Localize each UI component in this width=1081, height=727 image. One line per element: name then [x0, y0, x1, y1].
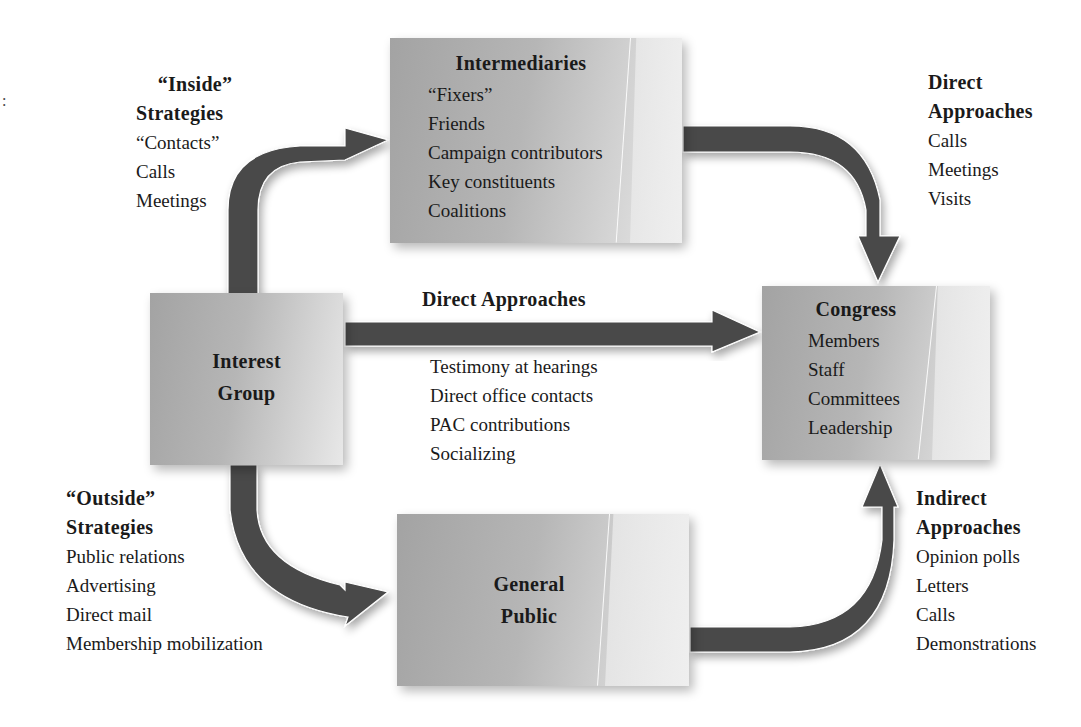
- arrow-direct-approaches-top: [683, 126, 900, 282]
- list-item: Coalitions: [428, 196, 603, 225]
- general-public-title-line2: Public: [457, 600, 601, 632]
- list-item: Membership mobilization: [66, 629, 263, 658]
- list-item: “Fixers”: [428, 80, 603, 109]
- intermediaries-title: Intermediaries: [390, 52, 652, 75]
- list-item: Letters: [916, 571, 1036, 600]
- list-item: Key constituents: [428, 167, 603, 196]
- list-item: Public relations: [66, 542, 263, 571]
- direct-approaches-top-head-line1: Direct: [928, 68, 1033, 97]
- node-interest-group: Interest Group: [150, 293, 343, 465]
- intermediaries-items: “Fixers” Friends Campaign contributors K…: [428, 80, 603, 225]
- list-item: PAC contributions: [430, 410, 598, 439]
- direct-approaches-middle-head: Direct Approaches: [422, 285, 586, 314]
- arrow-inside-strategies: [228, 128, 388, 295]
- interest-group-lobbying-diagram: :: [0, 0, 1081, 727]
- list-item: Committees: [808, 384, 900, 413]
- outside-strategies-head-line1: “Outside”: [66, 484, 263, 513]
- general-public-title-line1: General: [457, 568, 601, 600]
- inside-strategies-head-line2: Strategies: [136, 99, 250, 128]
- outside-strategies-head-line2: Strategies: [66, 513, 263, 542]
- direct-approaches-middle-items: Testimony at hearings Direct office cont…: [430, 352, 598, 468]
- arrow-indirect-approaches: [690, 464, 898, 652]
- list-item: Calls: [136, 157, 250, 186]
- inside-strategies-head-line1: “Inside”: [140, 70, 250, 99]
- congress-title: Congress: [762, 298, 950, 321]
- indirect-approaches-head-line1: Indirect: [916, 484, 1036, 513]
- list-item: “Contacts”: [136, 128, 250, 157]
- list-item: Demonstrations: [916, 629, 1036, 658]
- list-item: Members: [808, 326, 900, 355]
- label-outside-strategies: “Outside” Strategies Public relations Ad…: [66, 484, 263, 658]
- label-direct-approaches-top: Direct Approaches Calls Meetings Visits: [928, 68, 1033, 213]
- interest-group-title: Interest Group: [150, 345, 343, 409]
- list-item: Meetings: [136, 186, 250, 215]
- list-item: Calls: [928, 126, 1033, 155]
- list-item: Testimony at hearings: [430, 352, 598, 381]
- arrow-direct-approaches-middle: [345, 310, 760, 352]
- list-item: Friends: [428, 109, 603, 138]
- list-item: Visits: [928, 184, 1033, 213]
- list-item: Socializing: [430, 439, 598, 468]
- list-item: Leadership: [808, 413, 900, 442]
- list-item: Calls: [916, 600, 1036, 629]
- indirect-approaches-head-line2: Approaches: [916, 513, 1036, 542]
- list-item: Opinion polls: [916, 542, 1036, 571]
- label-inside-strategies: “Inside” Strategies “Contacts” Calls Mee…: [136, 70, 250, 215]
- node-intermediaries: Intermediaries “Fixers” Friends Campaign…: [390, 38, 682, 243]
- list-item: Direct mail: [66, 600, 263, 629]
- interest-group-title-line1: Interest: [150, 345, 343, 377]
- direct-approaches-top-head-line2: Approaches: [928, 97, 1033, 126]
- congress-items: Members Staff Committees Leadership: [808, 326, 900, 442]
- list-item: Meetings: [928, 155, 1033, 184]
- interest-group-title-line2: Group: [150, 377, 343, 409]
- list-item: Advertising: [66, 571, 263, 600]
- list-item: Staff: [808, 355, 900, 384]
- list-item: Direct office contacts: [430, 381, 598, 410]
- label-indirect-approaches: Indirect Approaches Opinion polls Letter…: [916, 484, 1036, 658]
- node-general-public: General Public: [397, 514, 689, 686]
- label-direct-approaches-middle: Direct Approaches: [422, 285, 586, 314]
- general-public-title: General Public: [457, 568, 601, 632]
- list-item: Campaign contributors: [428, 138, 603, 167]
- node-congress: Congress Members Staff Committees Leader…: [762, 286, 990, 460]
